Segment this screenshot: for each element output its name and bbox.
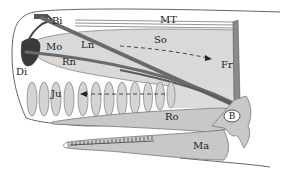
label-ro: Ro: [165, 112, 179, 122]
label-di: Di: [16, 67, 27, 77]
label-fr: Fr: [221, 60, 233, 70]
mt-lines: [75, 20, 234, 28]
mandible-tip: [64, 142, 69, 148]
label-ln: Ln: [81, 40, 94, 50]
label-mt: MT: [160, 15, 177, 25]
junk-lenses: [27, 82, 175, 116]
label-bi: Bi: [52, 16, 63, 26]
label-ma: Ma: [193, 141, 209, 151]
label-so: So: [154, 35, 167, 45]
label-rn: Rn: [62, 57, 76, 67]
label-mo: Mo: [46, 42, 62, 52]
throat-outline: [180, 158, 270, 167]
label-b: B: [224, 112, 240, 121]
whale-head-diagram: Bi MT So Fr Mo Ln Rn Di Ju Ro B Ma: [0, 0, 291, 171]
frontal-wall: [233, 20, 240, 102]
diagram-canvas: [0, 0, 291, 171]
label-ju: Ju: [51, 89, 61, 99]
